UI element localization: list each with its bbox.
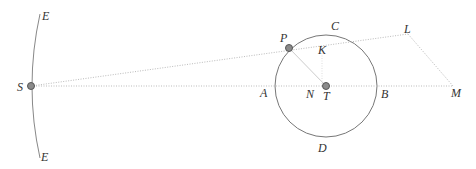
label-E-bottom: E <box>40 150 49 164</box>
label-M: M <box>450 86 462 100</box>
label-S: S <box>17 80 23 94</box>
label-K: K <box>317 43 327 57</box>
label-D: D <box>317 141 327 155</box>
label-B: B <box>381 87 389 101</box>
label-E-top: E <box>41 9 50 23</box>
label-N: N <box>305 87 315 101</box>
label-A: A <box>259 86 268 100</box>
label-T: T <box>323 89 331 103</box>
line-LM <box>408 34 453 86</box>
label-C: C <box>331 19 340 33</box>
label-L: L <box>403 22 411 36</box>
point-S <box>28 83 35 90</box>
label-P: P <box>279 31 288 45</box>
orbit-diagram: E E S P C K L A N T B M D <box>0 0 476 169</box>
point-P <box>286 45 293 52</box>
line-SL <box>31 34 408 86</box>
